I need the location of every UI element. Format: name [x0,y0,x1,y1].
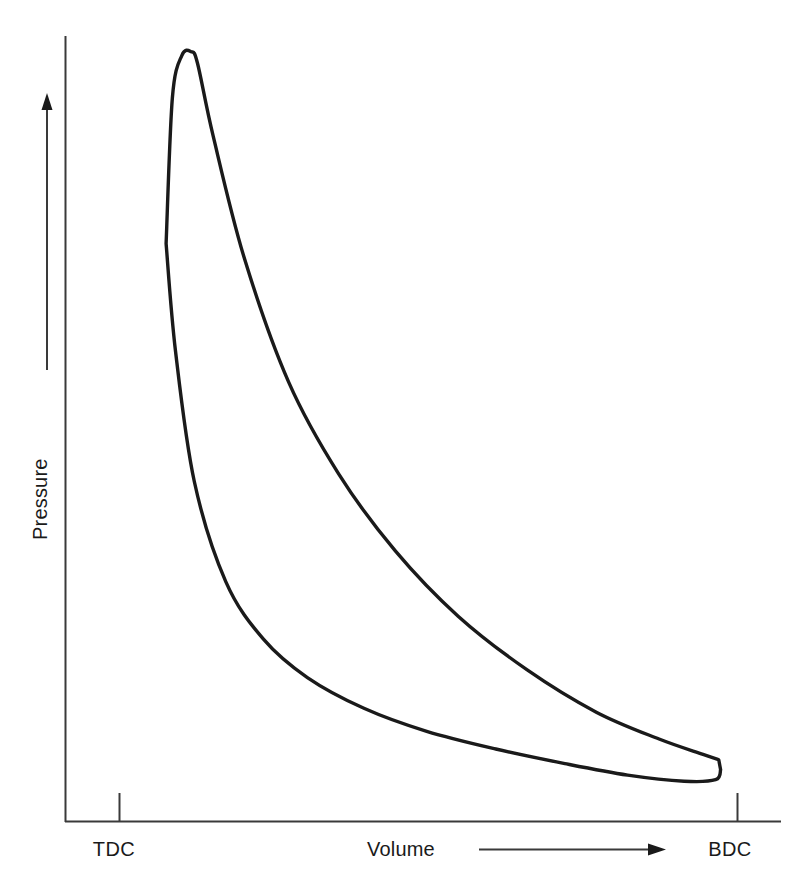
tick-label-tdc: TDC [93,838,135,860]
pv-indicator-diagram: Pressure TDC BDC Volume [0,0,808,884]
y-axis-label: Pressure [29,458,51,540]
x-axis-label: Volume [367,838,435,860]
tick-label-bdc: BDC [708,838,751,860]
figure-background [0,0,808,884]
